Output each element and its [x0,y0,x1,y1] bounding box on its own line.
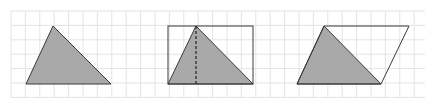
figure-triangle-in-rectangle [168,26,253,84]
shaded-triangle [297,26,381,84]
diagram-svg [0,0,440,105]
shaded-triangle [168,26,253,84]
diagram-canvas [0,0,440,105]
